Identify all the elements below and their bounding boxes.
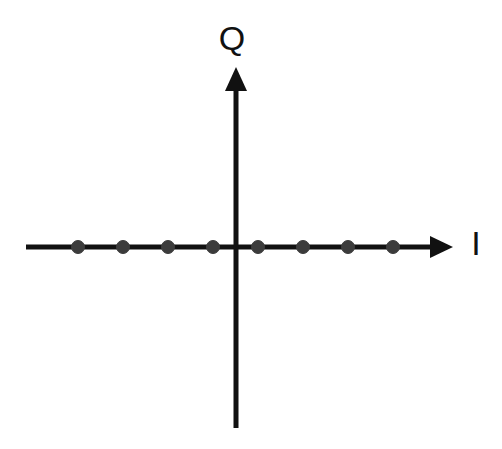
constellation-point-8	[387, 241, 400, 254]
plot-background	[0, 0, 502, 449]
constellation-plot-canvas: Q I	[0, 0, 502, 449]
constellation-point-6	[297, 241, 310, 254]
constellation-point-1	[72, 241, 85, 254]
quadrature-axis-label: Q	[219, 19, 245, 57]
constellation-point-5	[252, 241, 265, 254]
in-phase-axis-label: I	[471, 224, 480, 262]
constellation-point-2	[117, 241, 130, 254]
constellation-point-4	[207, 241, 220, 254]
constellation-point-7	[342, 241, 355, 254]
constellation-point-3	[162, 241, 175, 254]
constellation-diagram-figure: Q I	[0, 0, 502, 449]
